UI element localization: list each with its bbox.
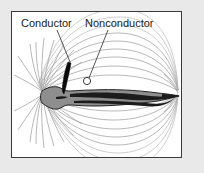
diagram-panel: Conductor Nonconductor — [11, 11, 182, 158]
conductor-object — [62, 62, 71, 94]
conductor-label: Conductor — [21, 17, 72, 29]
diagram-canvas: Conductor Nonconductor — [12, 12, 181, 157]
field-line — [36, 96, 42, 144]
field-line — [14, 75, 42, 91]
field-lines-group — [14, 12, 178, 157]
figure-root: Conductor Nonconductor — [0, 0, 204, 173]
field-line — [14, 95, 42, 111]
electric-fish — [41, 87, 181, 109]
nonconductor-label: Nonconductor — [85, 17, 154, 29]
nonconductor-object — [83, 77, 90, 84]
